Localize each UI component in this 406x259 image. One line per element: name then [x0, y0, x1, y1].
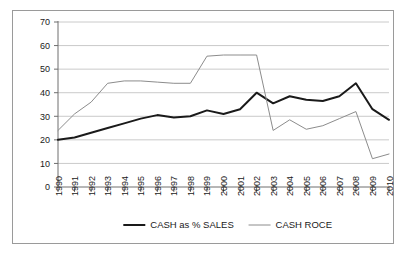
- y-tick-label: 40: [40, 88, 50, 98]
- chart-frame: 010203040506070 199019911992199319941995…: [12, 10, 394, 244]
- y-tick-label: 20: [40, 135, 50, 145]
- y-axis-tick-labels: 010203040506070: [40, 17, 50, 192]
- y-tick-label: 0: [45, 182, 50, 192]
- x-tick-label: 2009: [368, 176, 378, 196]
- x-tick-label: 1998: [186, 176, 196, 196]
- x-tick-label: 1993: [103, 176, 113, 196]
- y-tick-label: 30: [40, 112, 50, 122]
- y-tick-label: 60: [40, 41, 50, 51]
- chart-figure: 010203040506070 199019911992199319941995…: [0, 0, 406, 259]
- legend-label-cash-as-sales: CASH as % SALES: [150, 219, 233, 230]
- x-tick-label: 1994: [120, 176, 130, 196]
- y-tick-label: 50: [40, 64, 50, 74]
- x-tick-label: 1997: [169, 176, 179, 196]
- y-tick-label: 10: [40, 159, 50, 169]
- x-tick-label: 1991: [70, 176, 80, 196]
- x-tick-label: 2005: [302, 176, 312, 196]
- x-tick-label: 2007: [335, 176, 345, 196]
- line-chart: 010203040506070 199019911992199319941995…: [13, 11, 395, 245]
- y-tick-label: 70: [40, 17, 50, 27]
- x-tick-label: 2001: [236, 176, 246, 196]
- series-line-cash-as-sales: [58, 83, 389, 140]
- x-tick-label: 2006: [318, 176, 328, 196]
- x-tick-label: 2008: [351, 176, 361, 196]
- legend-label-cash-roce: CASH ROCE: [276, 219, 332, 230]
- x-tick-label: 1990: [54, 176, 64, 196]
- x-tick-label: 2003: [269, 176, 279, 196]
- x-tick-label: 2010: [385, 176, 395, 196]
- gridlines: [58, 22, 389, 163]
- x-tick-label: 1999: [202, 176, 212, 196]
- x-axis-tick-labels: 1990199119921993199419951996199719981999…: [54, 176, 395, 196]
- x-tick-label: 1995: [136, 176, 146, 196]
- x-tick-label: 2004: [285, 176, 295, 196]
- chart-legend: CASH as % SALESCASH ROCE: [123, 219, 332, 230]
- x-tick-label: 2002: [252, 176, 262, 196]
- y-axis-ticks: [54, 22, 58, 187]
- x-tick-label: 1996: [153, 176, 163, 196]
- series-line-cash-roce: [58, 55, 389, 159]
- x-tick-label: 1992: [87, 176, 97, 196]
- data-series-group: [58, 55, 389, 159]
- x-tick-label: 2000: [219, 176, 229, 196]
